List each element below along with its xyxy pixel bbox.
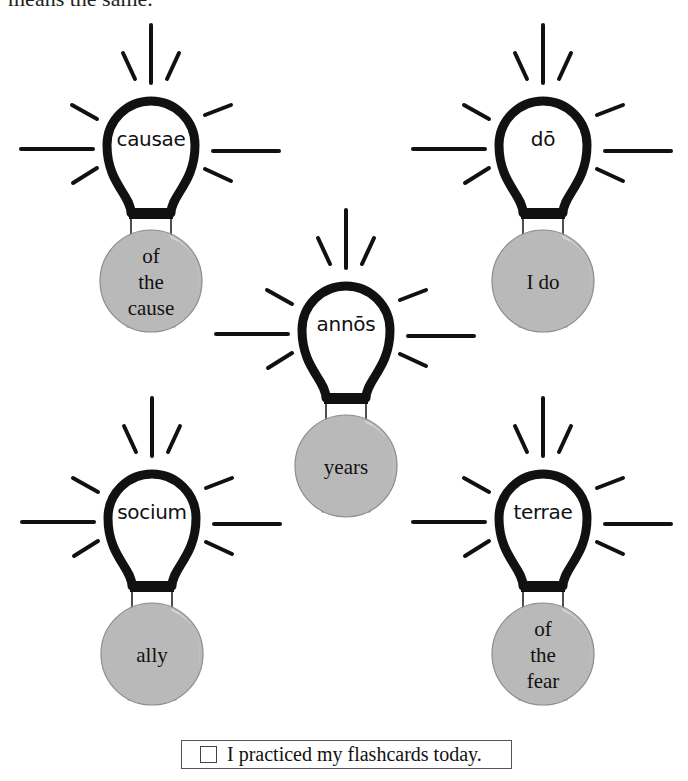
latin-word: annōs bbox=[296, 312, 396, 336]
latin-word: socium bbox=[102, 500, 202, 524]
english-meaning: years bbox=[296, 454, 396, 480]
english-meaning: ally bbox=[102, 642, 202, 668]
latin-word: terrae bbox=[493, 500, 593, 524]
practice-label: I practiced my flashcards today. bbox=[227, 743, 482, 766]
practice-checkbox-row[interactable]: I practiced my flashcards today. bbox=[181, 740, 512, 769]
practice-checkbox[interactable] bbox=[200, 746, 217, 763]
bulb-card-terrae: terrae of the fear bbox=[403, 396, 683, 706]
english-meaning: of the fear bbox=[493, 616, 593, 694]
heading-cut-off: means the same. bbox=[8, 0, 153, 12]
latin-word: dō bbox=[493, 127, 593, 151]
english-meaning: I do bbox=[493, 269, 593, 295]
bulb-card-socium: socium ally bbox=[12, 396, 292, 706]
latin-word: causae bbox=[101, 127, 201, 151]
english-meaning: of the cause bbox=[101, 243, 201, 321]
